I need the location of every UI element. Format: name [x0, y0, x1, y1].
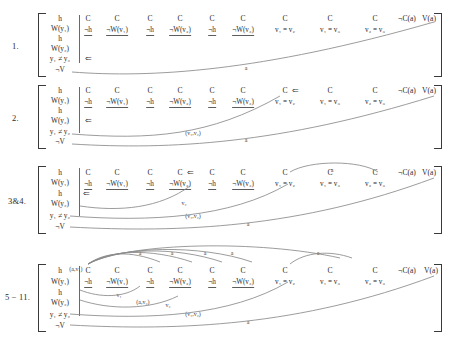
- goal-row-3: W(y₂): [51, 200, 69, 208]
- clause-top-2: C: [147, 267, 152, 275]
- stage-5-11-label-av2: (a,v₂): [136, 298, 149, 306]
- goal-row-4: y₁ ≠ y₂: [50, 311, 70, 319]
- arc-stage511-a-5: [88, 246, 340, 264]
- stage-3-4-label: 3&4.: [8, 196, 26, 206]
- clause-lit-5: ¬W(v₃): [232, 278, 254, 288]
- goal-row-5: ¬V: [55, 138, 65, 146]
- goal-row-1: W(y₁): [51, 97, 69, 105]
- goal-row-2: h: [58, 190, 62, 198]
- clause-lit-6: v₁ = v₂: [275, 278, 295, 286]
- stage-5-11-bracket-left: [38, 264, 46, 332]
- goal-row-5: ¬V: [55, 66, 65, 74]
- stage-2-label: 2.: [12, 113, 19, 123]
- goal-row-3: W(y₂): [51, 299, 69, 307]
- stage-5-11-separator: [79, 266, 80, 316]
- stage-3-4-resolution-arrow: ⇐: [83, 190, 90, 198]
- goal-row-0: h: [58, 87, 62, 95]
- clause-top-7: C: [327, 87, 332, 95]
- goal-row-4: y₁ ≠ y₂: [50, 55, 70, 63]
- stage-1-arc-label-a: a: [245, 64, 248, 72]
- clause-lit-4: ¬h: [208, 98, 216, 108]
- stage-3-4-arc-label-a-low: a: [247, 220, 250, 228]
- clause-lit-8: v₂ = v₃: [365, 98, 385, 106]
- clause-lit-0: ¬h: [84, 278, 92, 288]
- stage-5-11-label-a-top-1: a: [139, 249, 142, 257]
- arc-stage511-a-1: [88, 254, 160, 264]
- stage-5-11-label-v1: v₁: [116, 291, 121, 299]
- stage-5-11-label-v2: v₂: [165, 301, 170, 309]
- stage-1-label: 1.: [12, 41, 19, 51]
- arc-stage511-a-3: [88, 251, 222, 264]
- clause-lit-6: v₁ = v₂: [275, 26, 295, 34]
- stage-2-column-arrow: ⇐: [292, 87, 299, 95]
- stage-5-11-label-a-top-3: a: [204, 249, 207, 257]
- clause-top-4: C: [209, 87, 214, 95]
- clause-top-9: ¬C(a): [398, 169, 416, 177]
- clause-top-5: C: [240, 15, 245, 23]
- stage-2-bracket-left: [38, 85, 46, 149]
- stage-5-11-label-av1: (a,v₁): [69, 265, 82, 273]
- clause-lit-7: v₁ = v₃: [320, 26, 340, 34]
- goal-row-2: h: [58, 35, 62, 43]
- clause-top-4: C: [209, 15, 214, 23]
- clause-top-10: V(a): [422, 169, 436, 177]
- goal-row-4: y₁ ≠ y₂: [50, 212, 70, 220]
- clause-lit-7: v₁ = v₃: [320, 180, 340, 188]
- stage-2-separator: [79, 87, 80, 133]
- stage-3-4-separator: [79, 168, 80, 216]
- clause-top-6: C: [282, 87, 287, 95]
- goal-row-2: h: [58, 107, 62, 115]
- clause-lit-4: ¬h: [208, 26, 216, 36]
- stage-1-bracket-left: [38, 13, 46, 77]
- clause-lit-2: ¬h: [146, 98, 154, 108]
- stage-5-11-label: 5 − 11.: [5, 292, 30, 302]
- clause-lit-7: v₁ = v₃: [320, 278, 340, 286]
- clause-top-3: C: [177, 267, 182, 275]
- clause-top-9: ¬C(a): [398, 15, 416, 23]
- clause-top-0: C: [85, 15, 90, 23]
- clause-top-8: C: [372, 87, 377, 95]
- clause-top-8: C: [372, 267, 377, 275]
- clause-top-2: C: [147, 169, 152, 177]
- stage-5-11-label-a-top-4: a: [231, 249, 234, 257]
- clause-lit-6: v₁ = v₂: [275, 180, 295, 188]
- clause-top-3: C: [177, 15, 182, 23]
- clause-lit-7: v₁ = v₃: [320, 98, 340, 106]
- clause-lit-1: ¬W(v₁): [106, 98, 128, 108]
- clause-top-0: C: [85, 267, 90, 275]
- arc-stage34-col7-to-col9: [290, 163, 378, 172]
- clause-top-1: C: [114, 169, 119, 177]
- stage-5-11-label-a-top-5: a: [317, 249, 320, 257]
- stage-2-arc-label-pair: (v₁,v₂): [185, 129, 201, 137]
- clause-lit-5: ¬W(v₃): [232, 26, 254, 36]
- clause-lit-3: ¬W(v₂): [169, 26, 191, 36]
- goal-row-0: h: [58, 15, 62, 23]
- goal-row-4: y₁ ≠ y₂: [50, 128, 70, 136]
- stage-3-4-arc-label-pair: (v₁,v₂): [185, 212, 201, 220]
- clause-top-10: V(a): [424, 267, 438, 275]
- clause-top-1: C: [114, 87, 119, 95]
- goal-row-3: W(y₂): [51, 117, 69, 125]
- stage-1-resolution-arrow: ⇐: [85, 55, 92, 63]
- clause-lit-2: ¬h: [146, 180, 154, 190]
- figure-sheet: 1. h W(y₁) h W(y₂) y₁ ≠ y₂ ¬V ⇐ C C C C …: [0, 0, 452, 354]
- stage-2-resolution-arrow: ⇐: [85, 117, 92, 125]
- clause-lit-5: ¬W(v₃): [232, 98, 254, 108]
- clause-lit-3: ¬W(v₂): [169, 180, 191, 190]
- clause-lit-1: ¬W(v₁): [106, 26, 128, 36]
- clause-top-0: C: [85, 87, 90, 95]
- clause-lit-2: ¬h: [146, 26, 154, 36]
- clause-top-6: C: [282, 267, 287, 275]
- clause-lit-8: v₂ = v₃: [365, 180, 385, 188]
- stage-3-4-arc-label-a-top: a: [331, 166, 334, 174]
- clause-lit-6: v₁ = v₂: [275, 98, 295, 106]
- clause-lit-4: ¬h: [208, 180, 216, 190]
- clause-top-10: V(a): [422, 87, 436, 95]
- arc-stage511-a-6: [290, 253, 352, 264]
- clause-lit-8: v₂ = v₃: [365, 278, 385, 286]
- clause-top-4: C: [209, 169, 214, 177]
- clause-lit-1: ¬W(v₁): [106, 180, 128, 190]
- clause-top-9: ¬C(a): [398, 267, 416, 275]
- clause-top-2: C: [147, 87, 152, 95]
- stage-2-arc-label-a: a: [245, 136, 248, 144]
